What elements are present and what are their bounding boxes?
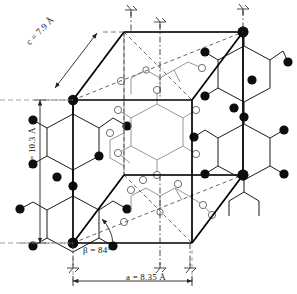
- benzene-ring: [205, 32, 288, 117]
- atom-filled: [200, 27, 292, 122]
- screw-axis-icon: [154, 17, 166, 28]
- label-angle-beta: β = 84°: [83, 245, 111, 255]
- molecule-layer-right-front: [189, 27, 292, 216]
- molecule-layer-interior-back: [106, 62, 215, 226]
- benzene-ring: [33, 100, 127, 186]
- molecule-fragment: [229, 192, 259, 216]
- label-axis-b: b = 10.3 Å: [27, 127, 37, 168]
- dimension-c: [40, 32, 124, 100]
- screw-axis-icon: [184, 262, 196, 273]
- crystal-diagram-svg: [0, 0, 297, 294]
- atom-open: [120, 180, 215, 225]
- crystal-structure-figure: c = 7.9 Å b = 10.3 Å a = 8.35 Å β = 84°: [0, 0, 297, 294]
- label-axis-a: a = 8.35 Å: [126, 272, 166, 282]
- benzene-ring-interior: [118, 90, 196, 175]
- atom-open: [106, 129, 113, 136]
- screw-axis-icon: [237, 4, 249, 15]
- atom-filled: [189, 103, 288, 180]
- angle-beta-arc: [102, 219, 113, 243]
- molecule-fragment-interior: [131, 62, 202, 94]
- cell-interior-guides: [124, 32, 243, 175]
- screw-axis-icon: [125, 5, 137, 16]
